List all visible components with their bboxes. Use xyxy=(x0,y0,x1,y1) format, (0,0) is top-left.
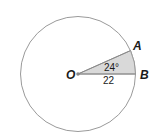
center-point xyxy=(76,72,80,76)
circle-diagram: O A B 24° 22 xyxy=(0,0,155,140)
radius-label: 22 xyxy=(103,75,115,86)
point-a-label: A xyxy=(132,39,142,53)
center-label: O xyxy=(66,68,76,82)
angle-label: 24° xyxy=(104,62,119,73)
point-b-label: B xyxy=(140,68,149,82)
